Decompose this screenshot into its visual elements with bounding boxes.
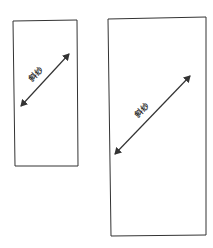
small-fabric-rectangle: [13, 20, 78, 166]
large-bias-grain-arrow-icon: [115, 76, 190, 154]
large-fabric-panel: 斜纱: [108, 17, 206, 236]
small-bias-grain-label: 斜纱: [26, 65, 45, 84]
small-bias-grain-arrow-icon: [21, 54, 69, 106]
bias-grain-diagram: 斜纱 斜纱: [0, 0, 213, 248]
large-bias-grain-label: 斜纱: [132, 101, 151, 120]
large-fabric-rectangle: [108, 17, 206, 236]
small-fabric-panel: 斜纱: [13, 20, 78, 166]
